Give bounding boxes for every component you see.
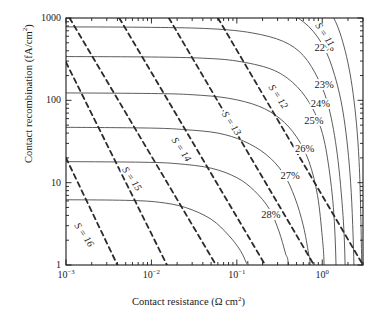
curve-s-11: [218, 18, 363, 265]
x-axis-label: Contact resistance (Ω cm2): [0, 296, 377, 307]
curve-label-26: 26%: [295, 143, 315, 154]
y-tick-label-3: 1000: [21, 12, 61, 23]
curve-s-12: [169, 18, 314, 265]
curve-label-25: 25%: [304, 115, 324, 126]
x-axis-label-text: Contact resistance (Ω cm2): [132, 296, 245, 307]
plot-frame: [66, 18, 363, 265]
curve-label-s-16: S = 16: [72, 220, 96, 248]
y-tick-label-2: 100: [21, 94, 61, 105]
curve-s-14: [70, 18, 216, 265]
curve-label-23: 23%: [314, 79, 334, 90]
x-tick-label-1: 10−2: [131, 269, 171, 280]
curve-27: [6, 127, 310, 314]
x-tick-label-0: 10−3: [46, 269, 86, 280]
y-tick-label-0: 1: [21, 259, 61, 270]
y-tick-label-1: 10: [21, 177, 61, 188]
curve-26: [6, 93, 324, 315]
curve-label-27: 27%: [280, 170, 300, 181]
x-tick-label-2: 10−1: [217, 269, 257, 280]
curve-label-s-13: S = 13: [220, 109, 244, 137]
figure-contact-resistance-recombination: 22%22%23%23%24%24%25%25%26%26%27%27%28%2…: [0, 0, 377, 322]
curve-s-16: [66, 158, 117, 265]
axis-ticks: [66, 18, 363, 265]
curve-label-28: 28%: [261, 209, 281, 220]
x-tick-label-3: 100: [302, 269, 342, 280]
curve-label-24: 24%: [311, 98, 331, 109]
curve-s-13: [119, 18, 265, 265]
